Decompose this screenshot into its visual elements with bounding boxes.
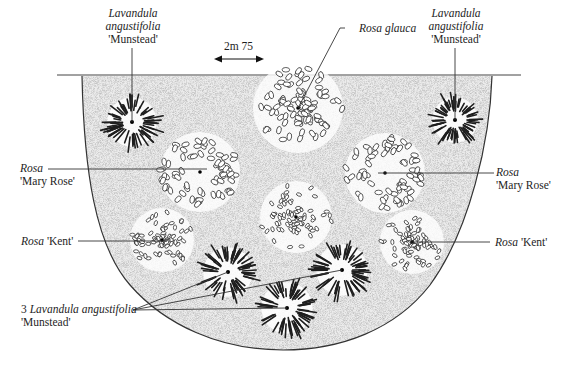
label-lavender-top-left: Lavandula angustifolia 'Munstead' <box>100 7 166 46</box>
label-cultivar: 'Mary Rose' <box>496 179 551 192</box>
label-cultivar: 'Munstead' <box>21 316 137 329</box>
label-genus: Rosa <box>496 166 551 179</box>
label-genus: Rosa <box>21 235 44 247</box>
label-lavender-top-right: Lavandula angustifolia 'Munstead' <box>423 7 489 46</box>
label-genus: Lavandula <box>423 7 489 20</box>
label-species: angustifolia <box>82 303 137 315</box>
label-cultivar: 'Mary Rose' <box>20 175 75 188</box>
rose-small-symbol <box>130 208 194 272</box>
label-genus: Lavandula <box>100 7 166 20</box>
scale-label: 2m 75 <box>224 40 253 53</box>
label-species: angustifolia <box>100 20 166 33</box>
label-genus: Rosa <box>20 162 75 175</box>
label-mary-rose-right: Rosa 'Mary Rose' <box>496 166 551 192</box>
scale-text: 2m 75 <box>224 40 253 52</box>
label-cultivar: 'Kent' <box>521 236 548 248</box>
label-species: glauca <box>385 22 416 34</box>
label-cultivar: 'Munstead' <box>423 33 489 46</box>
label-genus: Rosa <box>359 22 382 34</box>
scale-bar <box>214 56 264 63</box>
label-cultivar: 'Munstead' <box>100 33 166 46</box>
label-rosa-glauca: Rosa glauca <box>359 22 416 35</box>
label-mary-rose-left: Rosa 'Mary Rose' <box>20 162 75 188</box>
label-kent-left: Rosa 'Kent' <box>21 235 73 248</box>
label-genus: Rosa <box>495 236 518 248</box>
label-species: angustifolia <box>423 20 489 33</box>
label-genus: Lavandula <box>30 303 79 315</box>
label-kent-right: Rosa 'Kent' <box>495 236 547 249</box>
label-lavender-group: 3 Lavandula angustifolia 'Munstead' <box>21 303 137 329</box>
label-cultivar: 'Kent' <box>47 235 74 247</box>
label-count: 3 <box>21 303 27 315</box>
